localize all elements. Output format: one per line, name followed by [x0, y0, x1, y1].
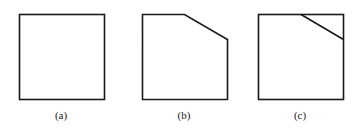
panel-label-c: (c)	[294, 109, 306, 121]
corner-cut-line-c	[301, 15, 344, 40]
panel-b	[143, 15, 228, 100]
panel-label-b: (b)	[178, 109, 191, 121]
panel-c	[259, 15, 344, 100]
panel-label-a: (a)	[55, 109, 67, 121]
square-c	[259, 15, 344, 100]
panel-a	[20, 15, 105, 100]
square-a	[20, 15, 105, 100]
truncated-square-b	[143, 15, 228, 100]
